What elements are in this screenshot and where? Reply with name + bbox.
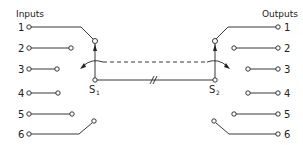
s2-wiper-contact	[213, 39, 218, 44]
s1-label: S	[89, 84, 95, 95]
output-6-label: 6	[284, 129, 290, 140]
s2-subscript: 2	[216, 89, 220, 96]
input-3-label: 3	[18, 64, 24, 75]
input-5-label: 5	[18, 109, 24, 120]
s1-subscript: 1	[96, 89, 100, 96]
switch-s2	[207, 44, 230, 80]
arrow-up-icon	[93, 44, 97, 51]
inputs-label: Inputs	[16, 9, 44, 19]
output-3-label: 3	[284, 64, 290, 75]
input-terminals	[27, 25, 96, 136]
output-terminals	[212, 25, 280, 136]
outputs-label: Outputs	[262, 9, 298, 19]
input-wires	[31, 27, 93, 134]
s1-common-terminal	[93, 78, 97, 82]
output-wires	[216, 27, 276, 134]
output-1-label: 1	[284, 22, 290, 33]
input-4-label: 4	[18, 88, 24, 99]
s2-common-terminal	[213, 78, 217, 82]
input-6-label: 6	[18, 129, 24, 140]
output-4-label: 4	[284, 88, 290, 99]
input-1-label: 1	[18, 22, 24, 33]
output-5-label: 5	[284, 109, 290, 120]
s1-wiper-contact	[93, 39, 98, 44]
s2-label: S	[209, 84, 215, 95]
input-2-label: 2	[18, 43, 24, 54]
switch-diagram: Inputs Outputs 1 2 3 4 5 6 1 2 3 4 5 6	[0, 0, 303, 145]
output-2-label: 2	[284, 43, 290, 54]
arrow-up-icon	[213, 44, 217, 51]
